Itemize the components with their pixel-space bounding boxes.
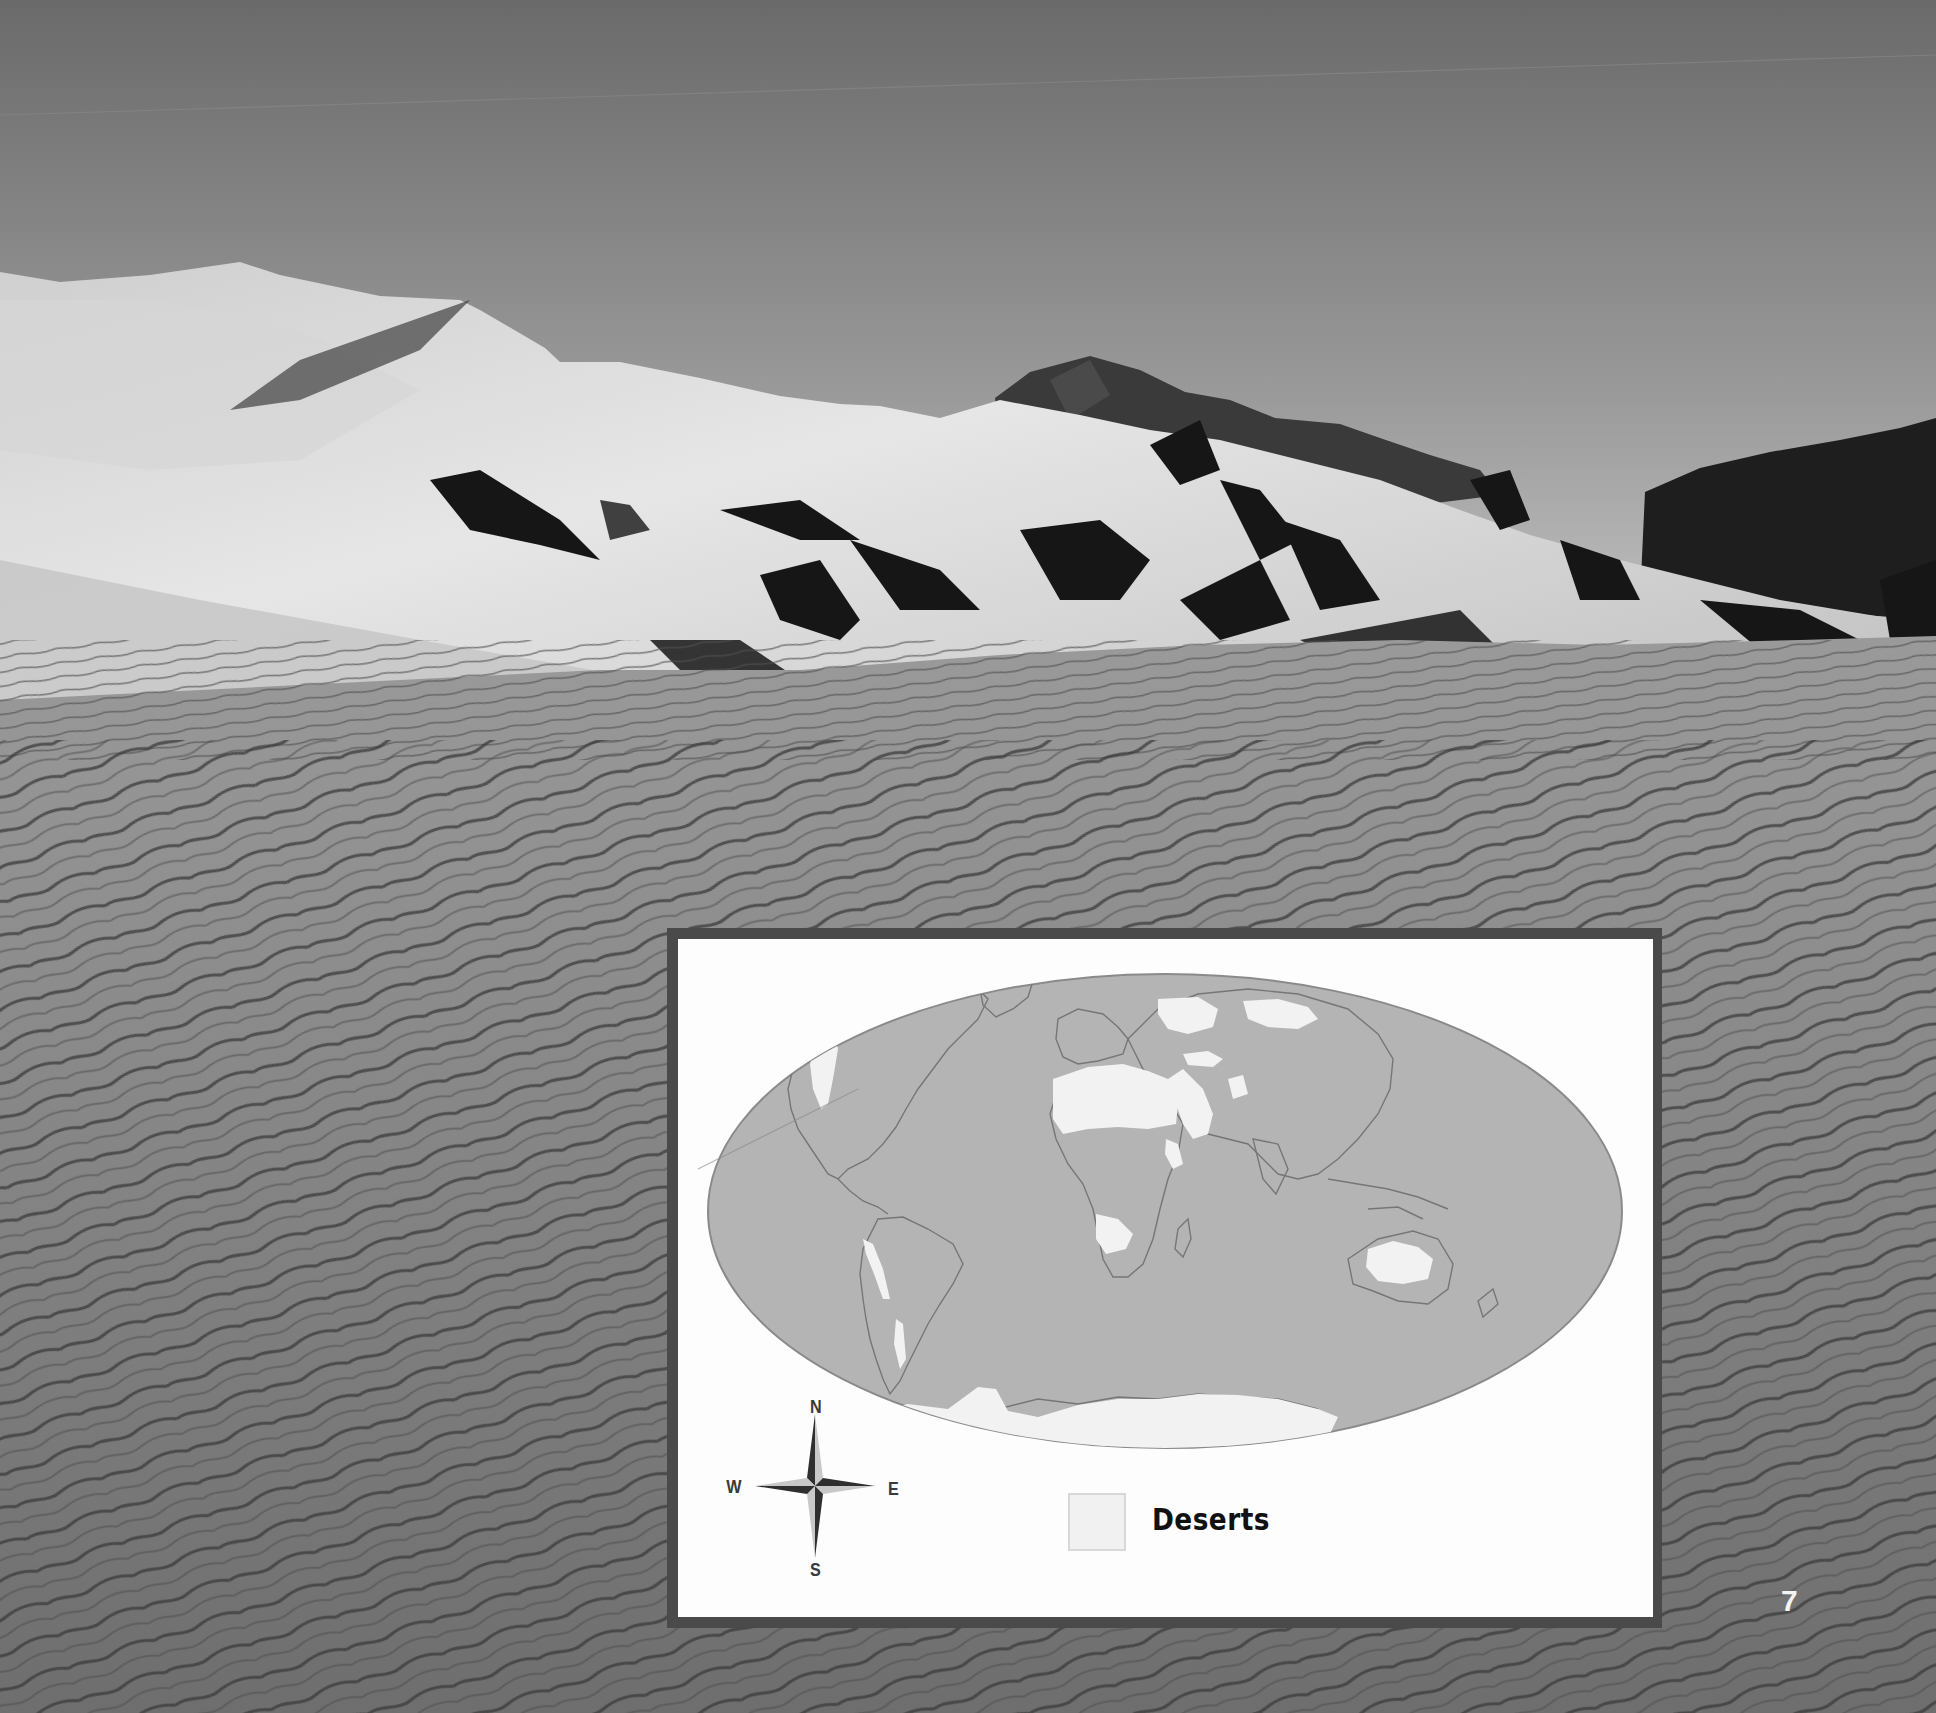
page-number: 7 xyxy=(1781,1586,1798,1616)
compass-east-label: E xyxy=(888,1479,899,1498)
compass-rose-icon xyxy=(755,1414,875,1558)
compass-north-label: N xyxy=(810,1397,822,1416)
map-inset-frame: N S W E Deserts xyxy=(667,928,1662,1628)
legend-label-deserts: Deserts xyxy=(1152,1505,1270,1535)
world-map-ellipse xyxy=(708,974,1622,1448)
compass-south-label: S xyxy=(810,1560,821,1579)
compass-west-label: W xyxy=(726,1477,741,1496)
legend-swatch-deserts xyxy=(1068,1493,1126,1551)
map-inset: N S W E Deserts xyxy=(678,939,1653,1617)
